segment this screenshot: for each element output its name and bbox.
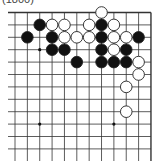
white-stone[interactable]: [108, 44, 120, 56]
white-stone[interactable]: [59, 19, 71, 31]
white-stone[interactable]: [108, 19, 120, 31]
black-stone[interactable]: [46, 44, 58, 56]
white-stone[interactable]: [46, 19, 58, 31]
white-stone[interactable]: [96, 7, 108, 19]
black-stone[interactable]: [34, 19, 46, 31]
black-stone[interactable]: [59, 44, 71, 56]
white-stone[interactable]: [83, 19, 95, 31]
go-board-svg: [0, 0, 155, 161]
white-stone[interactable]: [59, 32, 71, 44]
white-stone[interactable]: [133, 56, 145, 68]
black-stone[interactable]: [46, 32, 58, 44]
go-board[interactable]: [0, 0, 155, 161]
black-stone[interactable]: [108, 56, 120, 68]
star-point: [38, 48, 41, 51]
black-stone[interactable]: [22, 32, 34, 44]
white-stone[interactable]: [120, 106, 132, 118]
white-stone[interactable]: [108, 32, 120, 44]
black-stone[interactable]: [120, 44, 132, 56]
black-stone[interactable]: [133, 32, 145, 44]
black-stone[interactable]: [96, 32, 108, 44]
star-point: [112, 123, 115, 126]
white-stone[interactable]: [120, 81, 132, 93]
white-stone[interactable]: [120, 32, 132, 44]
black-stone[interactable]: [71, 56, 83, 68]
white-stone[interactable]: [83, 32, 95, 44]
black-stone[interactable]: [96, 44, 108, 56]
black-stone[interactable]: [96, 56, 108, 68]
white-stone[interactable]: [133, 69, 145, 81]
star-point: [38, 123, 41, 126]
black-stone[interactable]: [96, 19, 108, 31]
diagram-caption: (1800): [2, 0, 34, 5]
black-stone[interactable]: [120, 56, 132, 68]
white-stone[interactable]: [71, 32, 83, 44]
